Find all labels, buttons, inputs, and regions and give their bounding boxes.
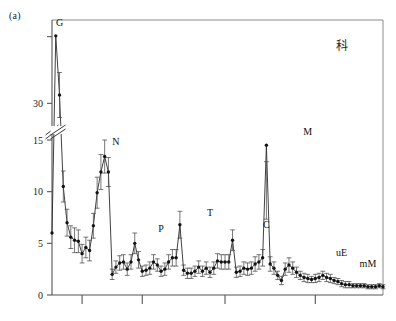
peak-label: P (158, 223, 164, 234)
data-point (148, 266, 151, 269)
data-point (103, 155, 106, 158)
peak-label: mM (360, 258, 377, 269)
peak-label: G (56, 17, 63, 28)
y-tick-label: 0 (38, 290, 43, 301)
data-point (223, 260, 226, 263)
data-point (306, 277, 309, 280)
data-point (242, 266, 245, 269)
data-point (310, 278, 313, 281)
data-series (52, 36, 383, 287)
data-markers (50, 34, 384, 288)
data-point (88, 249, 91, 252)
data-point (250, 266, 253, 269)
data-point (216, 259, 219, 262)
data-point (141, 270, 144, 273)
y-tick-label: 15 (33, 135, 43, 146)
data-point (317, 276, 320, 279)
data-point (340, 282, 343, 285)
data-point (344, 283, 347, 286)
data-point (118, 261, 121, 264)
data-point (220, 260, 223, 263)
data-point (276, 274, 279, 277)
data-point (178, 223, 181, 226)
data-point (163, 267, 166, 270)
data-point (336, 280, 339, 283)
axis-break-marks (46, 125, 66, 139)
data-point (370, 285, 373, 288)
data-point (295, 271, 298, 274)
data-point (84, 246, 87, 249)
data-point (182, 269, 185, 272)
data-point (95, 191, 98, 194)
data-point (122, 260, 125, 263)
data-point (359, 284, 362, 287)
peak-label: C (263, 219, 270, 230)
data-point (69, 235, 72, 238)
figure-root: (a) 科 05101530 GNPTCMuEmM (0, 0, 396, 321)
data-point (212, 266, 215, 269)
y-axis: 05101530 (33, 37, 52, 301)
data-point (77, 240, 80, 243)
data-point (80, 252, 83, 255)
data-point (99, 170, 102, 173)
peak-label: uE (336, 247, 347, 258)
data-point (92, 224, 95, 227)
data-point (231, 239, 234, 242)
data-point (205, 266, 208, 269)
data-point (261, 256, 264, 259)
data-point (208, 271, 211, 274)
data-point (381, 285, 384, 288)
data-point (265, 143, 268, 146)
data-point (114, 265, 117, 268)
data-point (284, 267, 287, 270)
data-point (186, 272, 189, 275)
data-point (107, 170, 110, 173)
y-tick-label: 5 (38, 238, 43, 249)
y-tick-label: 10 (33, 186, 43, 197)
data-point (73, 239, 76, 242)
data-point (291, 266, 294, 269)
data-point (197, 265, 200, 268)
data-point (58, 93, 61, 96)
data-point (235, 271, 238, 274)
data-point (329, 277, 332, 280)
data-point (137, 258, 140, 261)
data-point (193, 270, 196, 273)
data-point (253, 262, 256, 265)
data-point (159, 270, 162, 273)
peak-label: T (207, 207, 213, 218)
data-point (189, 272, 192, 275)
data-point (167, 260, 170, 263)
data-point (50, 231, 53, 234)
peak-annotations: GNPTCMuEmM (56, 17, 376, 269)
data-point (152, 260, 155, 263)
data-point (65, 221, 68, 224)
data-point (272, 266, 275, 269)
peak-label: M (303, 126, 312, 137)
data-point (62, 185, 65, 188)
data-point (156, 263, 159, 266)
y-tick-label: 30 (33, 98, 43, 109)
data-point (227, 260, 230, 263)
data-point (378, 284, 381, 287)
data-point (238, 270, 241, 273)
data-point (374, 285, 377, 288)
data-point (54, 34, 57, 37)
data-point (362, 284, 365, 287)
data-point (268, 262, 271, 265)
data-point (302, 276, 305, 279)
data-point (126, 267, 129, 270)
data-point (257, 260, 260, 263)
data-point (201, 270, 204, 273)
line-chart: 05101530 GNPTCMuEmM (0, 0, 396, 321)
data-point (332, 279, 335, 282)
data-point (246, 267, 249, 270)
data-point (110, 273, 113, 276)
data-point (129, 260, 132, 263)
data-point (171, 256, 174, 259)
data-point (321, 274, 324, 277)
data-point (347, 283, 350, 286)
data-point (287, 263, 290, 266)
data-point (366, 285, 369, 288)
data-point (174, 256, 177, 259)
